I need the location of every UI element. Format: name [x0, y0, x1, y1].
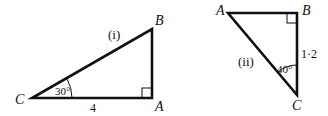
vertex-b-label: B [155, 13, 164, 28]
triangle-label: (ii) [238, 54, 254, 69]
triangle-label: (i) [108, 27, 120, 42]
diagram-canvas: (i) C A B 30° 4 (ii) A B C 40° 1·2 [0, 0, 328, 116]
triangles-figure: (i) C A B 30° 4 (ii) A B C 40° 1·2 [0, 0, 328, 116]
vertex-c-label: C [292, 98, 302, 113]
side-length-label: 1·2 [301, 47, 317, 61]
angle-label: 30° [55, 85, 70, 97]
vertex-a-label: A [215, 3, 225, 18]
right-angle-marker [142, 88, 152, 98]
triangle-ii: (ii) A B C 40° 1·2 [215, 3, 317, 113]
angle-label: 40° [277, 63, 292, 75]
triangle-i: (i) C A B 30° 4 [15, 13, 164, 115]
vertex-b-label: B [302, 3, 311, 18]
right-angle-marker [287, 13, 297, 23]
vertex-a-label: A [154, 99, 164, 114]
side-length-label: 4 [90, 101, 96, 115]
vertex-c-label: C [15, 92, 25, 107]
